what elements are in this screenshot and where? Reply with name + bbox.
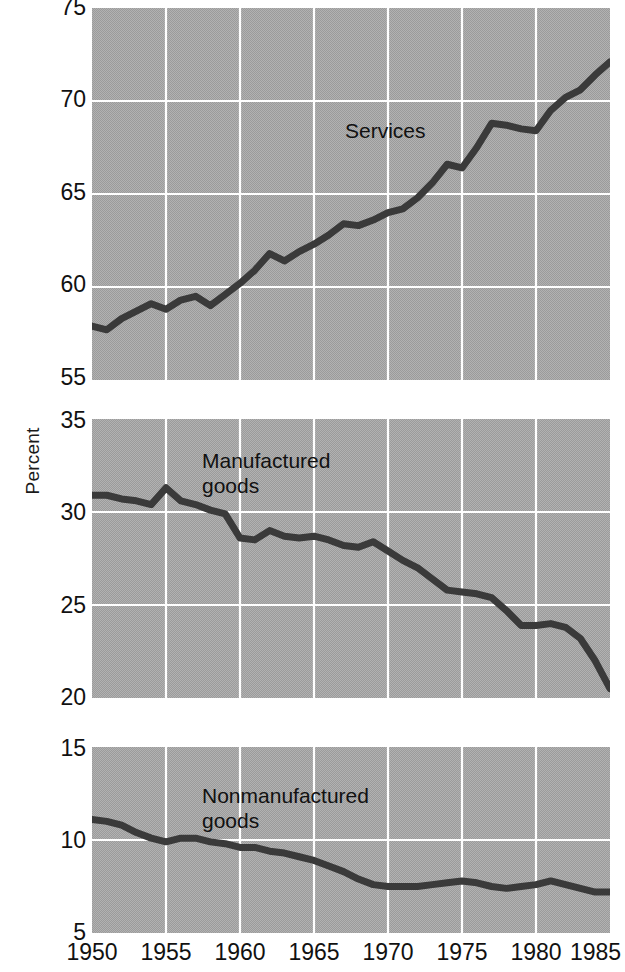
panel-services (92, 8, 610, 380)
xtick-1975: 1975 (424, 941, 500, 964)
ytick-65: 65 (60, 181, 86, 204)
ytick-30: 30 (60, 501, 86, 524)
ytick-20: 20 (60, 686, 86, 709)
panel-manufactured-goods (92, 419, 610, 698)
ytick-75: 75 (60, 0, 86, 19)
series-label-services: Services (345, 118, 426, 143)
xtick-1965: 1965 (276, 941, 352, 964)
xtick-1970: 1970 (350, 941, 426, 964)
series-label-manufactured-goods: Manufactured goods (202, 448, 330, 498)
xtick-1980: 1980 (498, 941, 574, 964)
xtick-1985: 1985 (570, 941, 625, 964)
ytick-25: 25 (60, 594, 86, 617)
xtick-1960: 1960 (202, 941, 278, 964)
ytick-10: 10 (60, 829, 86, 852)
xtick-1950: 1950 (54, 941, 130, 964)
ytick-35: 35 (60, 409, 86, 432)
ytick-55: 55 (60, 366, 86, 389)
ytick-70: 70 (60, 88, 86, 111)
ytick-60: 60 (60, 273, 86, 296)
series-label-nonmanufactured-goods: Nonmanufactured goods (202, 783, 369, 833)
xtick-1955: 1955 (128, 941, 204, 964)
y-axis-label: Percent (22, 406, 44, 516)
panel-nonmanufactured-goods (92, 747, 610, 933)
ytick-15: 15 (60, 737, 86, 760)
